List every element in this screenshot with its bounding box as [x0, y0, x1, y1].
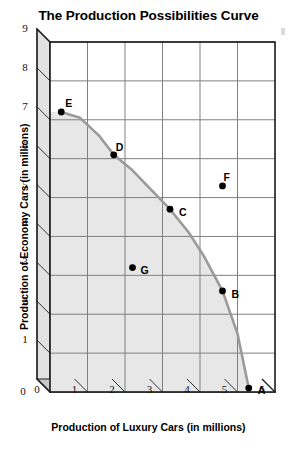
data-point-f [219, 182, 226, 189]
data-point-c [167, 206, 174, 213]
y-tick-label-1: 1 [17, 333, 33, 345]
chart-figure: The Production Possibilities Curve ABCDE… [0, 0, 297, 453]
point-label-f: F [224, 171, 230, 183]
y-tick-label-7: 7 [17, 100, 33, 112]
point-label-e: E [65, 97, 72, 109]
data-point-b [219, 287, 226, 294]
x-tick-label-1: 1 [65, 383, 85, 395]
y-axis-title: Production of Economy Cars (in millions) [18, 123, 30, 330]
point-label-c: C [179, 206, 187, 218]
x-tick-label-4: 4 [177, 383, 197, 395]
y-tick-label-0: 0 [15, 385, 31, 397]
data-point-e [58, 109, 65, 116]
x-tick-label-2: 2 [102, 383, 122, 395]
point-label-b: B [232, 288, 240, 300]
point-label-g: G [141, 264, 149, 276]
y-tick-label-8: 8 [17, 61, 33, 73]
data-point-g [129, 264, 136, 271]
point-label-d: D [116, 141, 124, 153]
x-tick-label-5: 5 [215, 383, 235, 395]
x-axis-title: Production of Luxury Cars (in millions) [0, 421, 297, 433]
x-tick-label-6: 6 [252, 383, 272, 395]
y-tick-label-9: 9 [17, 22, 33, 34]
x-tick-label-3: 3 [140, 383, 160, 395]
